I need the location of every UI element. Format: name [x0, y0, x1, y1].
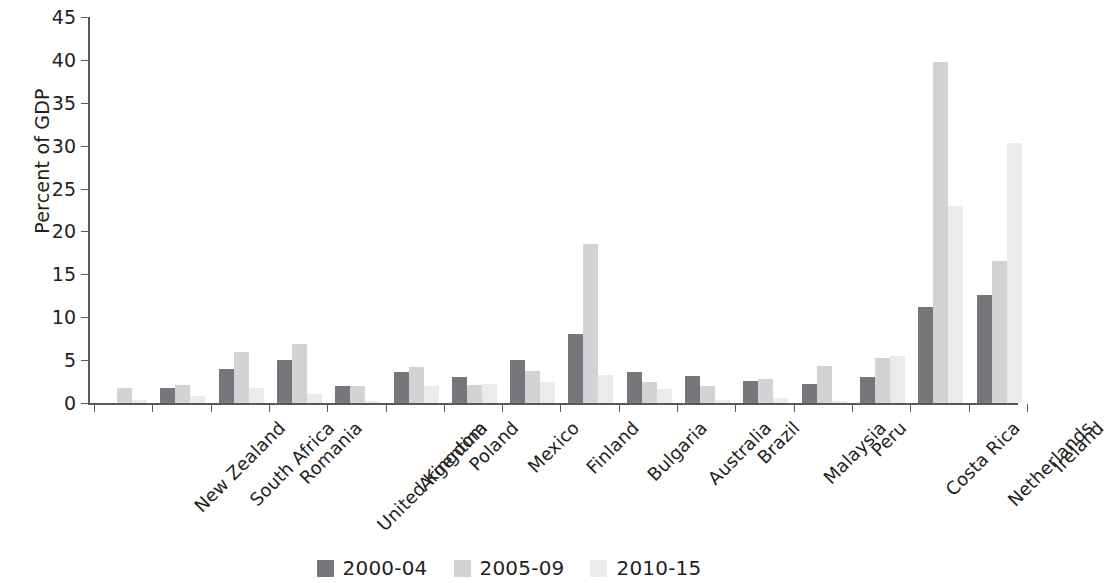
- x-axis-label: Finland: [582, 417, 643, 478]
- bar: [657, 389, 672, 403]
- y-tick-label: 45: [30, 6, 76, 28]
- bar: [482, 384, 497, 403]
- bar: [510, 360, 525, 403]
- bar-group: [496, 17, 554, 403]
- bar: [190, 396, 205, 403]
- bar-group: [321, 17, 379, 403]
- legend-label: 2010-15: [616, 556, 701, 580]
- bar: [525, 371, 540, 403]
- bar: [292, 344, 307, 403]
- bar: [307, 394, 322, 403]
- bar-group: [380, 17, 438, 403]
- y-tick-label: 30: [30, 135, 76, 157]
- bar: [132, 400, 147, 403]
- bar: [467, 385, 482, 403]
- x-tick-mark: [444, 404, 445, 412]
- bar: [452, 377, 467, 403]
- bar: [540, 382, 555, 403]
- bar: [933, 62, 948, 403]
- legend-item: 2010-15: [590, 556, 701, 580]
- x-axis-line: [88, 403, 1018, 405]
- legend-swatch-icon: [317, 560, 334, 577]
- bar-group: [963, 17, 1021, 403]
- bar: [715, 400, 730, 403]
- bar: [860, 377, 875, 403]
- plot-area: [88, 17, 1018, 403]
- bar: [234, 352, 249, 403]
- bar: [1007, 143, 1022, 403]
- bar: [977, 295, 992, 403]
- x-tick-mark: [386, 404, 387, 412]
- legend-swatch-icon: [454, 560, 471, 577]
- bar: [890, 356, 905, 403]
- x-tick-mark: [94, 404, 95, 412]
- x-tick-mark: [269, 404, 270, 412]
- bar-group: [88, 17, 146, 403]
- y-tick-label: 20: [30, 220, 76, 242]
- y-tick-label: 10: [30, 306, 76, 328]
- x-tick-mark: [327, 404, 328, 412]
- bar: [598, 375, 613, 403]
- x-tick-mark: [619, 404, 620, 412]
- bar-group: [904, 17, 962, 403]
- bar: [350, 386, 365, 403]
- x-tick-mark: [1027, 404, 1028, 412]
- bar: [175, 385, 190, 403]
- bar: [642, 382, 657, 403]
- bar: [817, 366, 832, 403]
- bar: [627, 372, 642, 403]
- bar: [117, 388, 132, 403]
- x-tick-mark: [560, 404, 561, 412]
- bar-group: [205, 17, 263, 403]
- x-tick-mark: [969, 404, 970, 412]
- bar: [700, 386, 715, 403]
- bar: [875, 358, 890, 403]
- bar: [219, 369, 234, 403]
- bar: [568, 334, 583, 403]
- legend-swatch-icon: [590, 560, 607, 577]
- bar-group: [788, 17, 846, 403]
- legend-label: 2005-09: [480, 556, 565, 580]
- bar: [394, 372, 409, 403]
- bar-group: [846, 17, 904, 403]
- bar: [773, 398, 788, 403]
- bar-group: [729, 17, 787, 403]
- x-tick-mark: [735, 404, 736, 412]
- bar: [918, 307, 933, 403]
- bar: [424, 386, 439, 403]
- legend-label: 2000-04: [343, 556, 428, 580]
- bar-group: [554, 17, 612, 403]
- bar-group: [438, 17, 496, 403]
- bar: [802, 384, 817, 403]
- y-tick-label: 15: [30, 263, 76, 285]
- y-tick-label: 25: [30, 178, 76, 200]
- bar-group: [613, 17, 671, 403]
- x-axis-label: Mexico: [523, 417, 583, 477]
- bar: [743, 381, 758, 403]
- bar: [409, 367, 424, 403]
- legend-item: 2000-04: [317, 556, 428, 580]
- bar: [832, 401, 847, 403]
- y-tick-label: 0: [30, 392, 76, 414]
- x-tick-mark: [152, 404, 153, 412]
- bar: [277, 360, 292, 403]
- x-tick-mark: [910, 404, 911, 412]
- bar: [365, 401, 380, 403]
- x-axis-label: Bulgaria: [643, 417, 711, 485]
- x-tick-mark: [852, 404, 853, 412]
- bar: [583, 244, 598, 403]
- y-tick-label: 40: [30, 49, 76, 71]
- chart-legend: 2000-042005-092010-15: [0, 556, 1018, 580]
- legend-item: 2005-09: [454, 556, 565, 580]
- bar: [992, 261, 1007, 403]
- bar: [948, 206, 963, 403]
- bar: [335, 386, 350, 403]
- y-tick-label: 35: [30, 92, 76, 114]
- x-tick-mark: [794, 404, 795, 412]
- x-tick-mark: [502, 404, 503, 412]
- bar: [685, 376, 700, 403]
- y-axis-title: Percent of GDP: [31, 41, 53, 281]
- x-tick-mark: [677, 404, 678, 412]
- y-tick-label: 5: [30, 349, 76, 371]
